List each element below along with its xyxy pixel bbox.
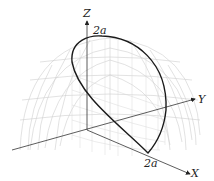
figure-canvas — [0, 0, 214, 181]
x-axis-label: X — [191, 168, 199, 179]
y-axis — [12, 99, 195, 150]
x-value-label: 2a — [144, 158, 158, 169]
cylinder-mesh — [72, 39, 165, 156]
z-axis-label: Z — [83, 8, 91, 19]
y-axis-label: Y — [198, 94, 205, 105]
x-axis — [87, 130, 190, 174]
top-value-label: 2a — [93, 25, 107, 36]
hemisphere-mesh — [20, 38, 200, 150]
diagram: Z 2a Y 2a X — [0, 0, 214, 181]
axes — [12, 21, 195, 174]
